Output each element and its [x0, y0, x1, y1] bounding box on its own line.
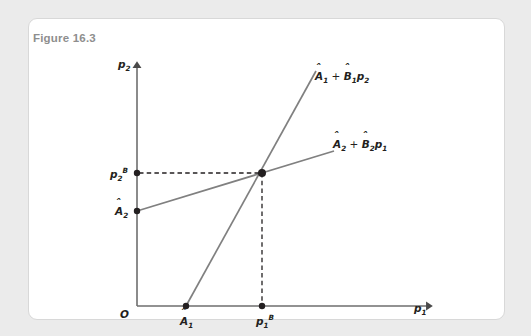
point-label-a1-sub: 1 — [188, 321, 193, 330]
curve2-var-sub: 1 — [382, 144, 387, 153]
svg-text:A1 + B1p2: A1 + B1p2 — [314, 70, 369, 85]
svg-text:ˆ: ˆ — [344, 62, 350, 74]
point-a2-dot — [134, 208, 140, 214]
x-axis-label-sub: 1 — [422, 308, 427, 317]
point-label-p1-sup: B — [269, 313, 275, 322]
curve-label-firm-1: A1 + B1p2 ˆ ˆ — [314, 62, 369, 84]
point-p2-equilibrium-dot — [134, 170, 140, 176]
curve1-plus: + — [328, 70, 343, 82]
point-p1-equilibrium-dot — [259, 303, 265, 309]
point-label-p2-sup: B — [123, 166, 129, 175]
curve-best-response-firm-2 — [137, 151, 334, 211]
point-label-p1-equilibrium: p1B — [255, 313, 275, 329]
figure-plot: p2 p1 O A2 ˆ p2B A1 ˆ p1B A1 + B1p2 ˆ ˆ … — [0, 0, 531, 336]
point-label-a1-hat: ˆ — [181, 307, 187, 319]
svg-text:ˆ: ˆ — [316, 62, 322, 74]
svg-text:A2 + B2p1: A2 + B2p1 — [332, 138, 387, 153]
curve1-var-sub: 2 — [364, 76, 369, 85]
svg-text:ˆ: ˆ — [334, 130, 340, 142]
point-label-p2-equilibrium: p2B — [109, 166, 129, 182]
point-label-a2-hat: ˆ — [116, 197, 122, 209]
point-label-a2-sub: 2 — [123, 211, 128, 220]
curve2-plus: + — [346, 138, 361, 150]
point-equilibrium-intersection-dot — [258, 169, 266, 177]
origin-label: O — [120, 308, 129, 320]
x-axis-label: p1 — [413, 302, 427, 317]
y-axis-label: p2 — [117, 58, 131, 73]
curve-label-firm-2: A2 + B2p1 ˆ ˆ — [332, 130, 387, 152]
svg-text:ˆ: ˆ — [362, 130, 368, 142]
y-axis-label-sub: 2 — [126, 64, 131, 73]
curve-best-response-firm-1 — [186, 71, 316, 306]
